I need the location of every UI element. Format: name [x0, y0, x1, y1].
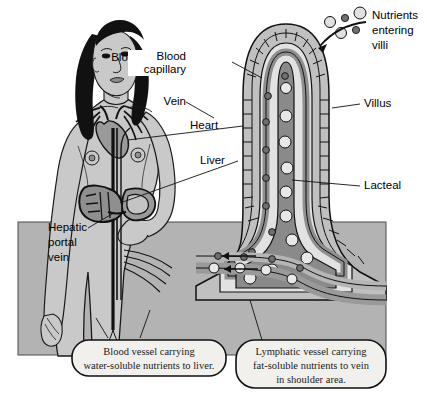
label-nutrients-line-1: Nutrients: [372, 9, 418, 21]
caption-lymphatic-vessel: Lymphatic vessel carrying fat-soluble nu…: [236, 340, 386, 388]
water-soluble-dot: [215, 253, 222, 260]
fat-globule: [281, 83, 292, 94]
caption-blood-line-1: Blood vessel carrying: [103, 346, 195, 357]
fat-globule: [235, 263, 245, 273]
fat-globule: [287, 274, 297, 284]
figure-left-hand: [41, 314, 62, 346]
caption-blood-line-2: water-soluble nutrients to liver.: [83, 360, 214, 371]
fat-globule: [280, 210, 292, 222]
water-soluble-dot: [297, 265, 304, 272]
water-soluble-dot: [282, 73, 289, 80]
fat-globule: [261, 265, 271, 275]
label-hpv-line-2: portal: [48, 236, 77, 248]
figure-nipple-right: [135, 152, 141, 158]
water-soluble-dot: [263, 175, 270, 182]
label-heart: Heart: [190, 119, 219, 131]
caption-blood-vessel: Blood vessel carrying water-soluble nutr…: [72, 340, 226, 376]
water-soluble-dot: [241, 254, 248, 261]
label-blood-capillary-line1: Blood capillary: [111, 51, 186, 63]
label-hpv-line-1: Hepatic: [48, 221, 87, 233]
figure-eye-left: [102, 54, 110, 59]
label-lacteal: Lacteal: [364, 179, 401, 191]
fat-globule: [301, 252, 313, 264]
label-villus: Villus: [364, 97, 392, 109]
fat-globule: [280, 186, 292, 198]
caption-lymph-line-2: fat-soluble nutrients to vein: [253, 360, 370, 371]
water-soluble-dot: [263, 147, 270, 154]
caption-lymph-line-1: Lymphatic vessel carrying: [256, 346, 368, 357]
water-soluble-dot: [269, 256, 276, 263]
water-soluble-dot: [265, 93, 272, 100]
water-soluble-dot: [263, 203, 270, 210]
diagram-canvas: Blood capillary Vein Heart Liver Villus …: [0, 0, 427, 405]
label-hpv-line-3: vein: [48, 251, 69, 263]
fat-globule: [209, 263, 219, 273]
label-vein: Vein: [164, 95, 186, 107]
figure-nipple-left: [89, 155, 95, 161]
organ-intestine-inner: [127, 194, 149, 214]
water-soluble-dot: [352, 26, 359, 33]
water-soluble-dot: [341, 14, 348, 21]
water-soluble-dot: [269, 229, 276, 236]
fat-globule: [279, 136, 291, 148]
fat-globule: [354, 7, 366, 19]
fat-globule: [286, 234, 298, 246]
caption-lymph-line-3: in shoulder area.: [276, 374, 346, 385]
water-soluble-dot: [263, 119, 270, 126]
fat-globule: [325, 17, 336, 28]
label-liver: Liver: [200, 154, 225, 166]
label-nutrients-line-3: villi: [372, 39, 388, 51]
label-nutrients-line-2: entering: [372, 24, 414, 36]
fat-globule: [281, 162, 293, 174]
fat-globule: [280, 110, 292, 122]
